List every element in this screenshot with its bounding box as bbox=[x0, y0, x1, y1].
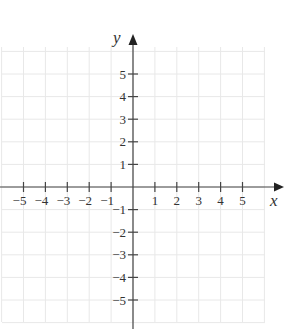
y-tick-label: −4 bbox=[112, 270, 126, 285]
x-tick-label: −3 bbox=[56, 193, 70, 208]
y-tick-label: 2 bbox=[120, 134, 127, 149]
y-tick-label: 1 bbox=[120, 157, 127, 172]
x-tick-label: 5 bbox=[239, 193, 246, 208]
y-axis-label: y bbox=[111, 28, 121, 47]
y-tick-label: 3 bbox=[120, 112, 127, 127]
x-tick-label: −4 bbox=[34, 193, 48, 208]
x-tick-label: 2 bbox=[174, 193, 181, 208]
axes bbox=[0, 34, 284, 329]
y-tick-label: 4 bbox=[120, 89, 127, 104]
y-tick-label: −5 bbox=[112, 293, 126, 308]
x-tick-label: 3 bbox=[195, 193, 202, 208]
y-tick-label: −1 bbox=[112, 202, 126, 217]
x-tick-label: −5 bbox=[13, 193, 27, 208]
y-tick-label: −3 bbox=[112, 247, 126, 262]
x-ticks: −5−4−3−2−112345 bbox=[13, 182, 246, 208]
x-axis-label: x bbox=[269, 191, 278, 210]
x-tick-label: 1 bbox=[152, 193, 159, 208]
y-tick-label: 5 bbox=[120, 67, 127, 82]
x-tick-label: 4 bbox=[217, 193, 224, 208]
y-axis-arrow-icon bbox=[129, 34, 138, 45]
y-tick-label: −2 bbox=[112, 225, 126, 240]
x-tick-label: −2 bbox=[78, 193, 92, 208]
coordinate-plane: −5−4−3−2−112345 −5−4−3−2−112345 x y bbox=[0, 0, 285, 329]
